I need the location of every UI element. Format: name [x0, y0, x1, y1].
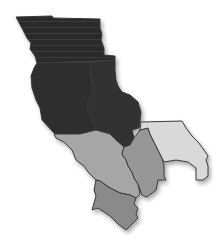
region-west-central[interactable]: [31, 62, 96, 136]
region-north-band[interactable]: [16, 16, 115, 63]
region-map: [0, 0, 224, 240]
